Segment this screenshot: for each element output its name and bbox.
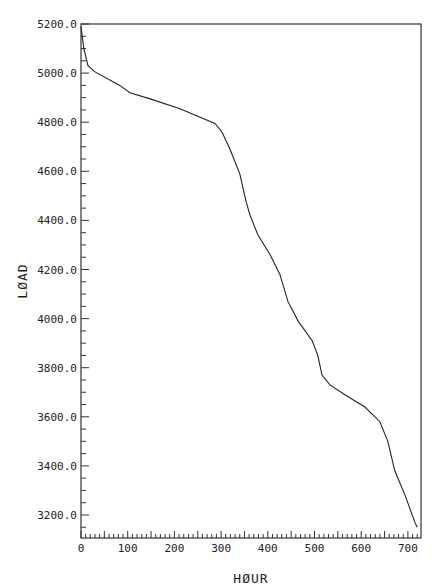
load-duration-chart: 3200.03400.03600.03800.04000.04200.04400… xyxy=(0,0,436,588)
y-tick-label: 5200.0 xyxy=(37,18,77,31)
x-tick-label: 500 xyxy=(305,542,325,555)
y-tick-label: 3200.0 xyxy=(37,509,77,522)
x-tick-label: 400 xyxy=(258,542,278,555)
x-tick-label: 0 xyxy=(78,542,85,555)
x-tick-label: 600 xyxy=(351,542,371,555)
plot-frame xyxy=(81,24,421,538)
y-axis-title: LØAD xyxy=(15,263,30,298)
y-tick-label: 3600.0 xyxy=(37,411,77,424)
y-tick-label: 4800.0 xyxy=(37,116,77,129)
y-tick-label: 4000.0 xyxy=(37,313,77,326)
x-tick-label: 100 xyxy=(118,542,138,555)
x-tick-label: 200 xyxy=(164,542,184,555)
y-tick-label: 3800.0 xyxy=(37,362,77,375)
x-axis-title: HØUR xyxy=(233,571,268,586)
y-tick-label: 4400.0 xyxy=(37,214,77,227)
y-tick-label: 4600.0 xyxy=(37,165,77,178)
y-tick-label: 5000.0 xyxy=(37,67,77,80)
load-curve xyxy=(81,27,417,528)
y-tick-label: 3400.0 xyxy=(37,460,77,473)
x-axis-ticks: 0100200300400500600700 xyxy=(78,531,418,555)
x-tick-label: 700 xyxy=(398,542,418,555)
y-tick-label: 4200.0 xyxy=(37,264,77,277)
x-tick-label: 300 xyxy=(211,542,231,555)
